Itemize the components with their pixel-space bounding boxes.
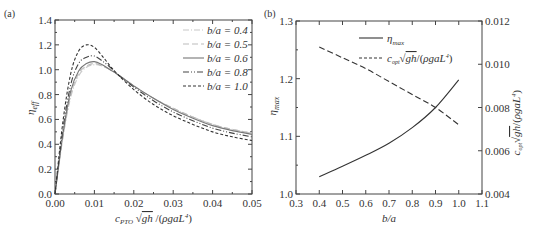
legend-entry: b/a = 0.6 xyxy=(207,52,248,64)
legend-entry: b/a = 0.8 xyxy=(207,66,248,78)
y-tick-label: 0.6 xyxy=(38,113,52,125)
y-right-tick-label: 0.004 xyxy=(485,188,510,200)
legend-entry: b/a = 1.0 xyxy=(207,80,248,92)
y-tick-label: 0.2 xyxy=(38,163,52,175)
y-tick-label: 1.0 xyxy=(279,188,293,200)
y-axis-label: ηmax xyxy=(266,96,281,115)
y-right-axis-label: copt√gh/(ρgaL4) xyxy=(510,90,523,156)
y-tick-label: 0.4 xyxy=(38,138,52,150)
y-right-tick-label: 0.006 xyxy=(485,145,510,157)
x-tick-label: 0.05 xyxy=(242,197,262,209)
y-right-tick-label: 0.008 xyxy=(485,102,510,114)
x-axis-label: cPTO √gh /(ρgaL4) xyxy=(115,212,192,226)
x-tick-label: 0.5 xyxy=(336,197,350,209)
y-tick-label: 0.8 xyxy=(38,89,52,101)
x-axis-label: b/a xyxy=(382,212,397,224)
x-tick-label: 0.03 xyxy=(164,197,184,209)
y-tick-label: 0.0 xyxy=(38,188,52,200)
panel-label-a: (a) xyxy=(4,8,15,20)
x-tick-label: 0.9 xyxy=(429,197,443,209)
panel-label-b: (b) xyxy=(264,8,276,20)
chart-b: 0.30.40.50.60.70.80.91.01.11.01.11.21.30… xyxy=(264,8,523,224)
legend-entry: copt√gh/(ρgaL4) xyxy=(387,52,453,65)
legend-entry: b/a = 0.4 xyxy=(207,24,248,36)
chart-a: 0.000.010.020.030.040.050.00.20.40.60.81… xyxy=(4,8,262,226)
x-tick-label: 0.01 xyxy=(85,197,104,209)
x-tick-label: 0.04 xyxy=(203,197,223,209)
y-tick-label: 1.3 xyxy=(279,15,293,27)
y-right-tick-label: 0.010 xyxy=(485,58,510,70)
figure: 0.000.010.020.030.040.050.00.20.40.60.81… xyxy=(0,0,541,237)
y-axis-label: ηeff xyxy=(24,100,39,115)
x-tick-label: 0.7 xyxy=(382,197,396,209)
series-line xyxy=(319,80,459,177)
x-tick-label: 0.4 xyxy=(312,197,326,209)
legend-entry: ηmax xyxy=(387,32,405,47)
plot-frame-b xyxy=(296,21,482,194)
y-tick-label: 1.1 xyxy=(279,130,293,142)
y-tick-label: 1.0 xyxy=(38,64,52,76)
legend-entry: b/a = 0.5 xyxy=(207,38,248,50)
x-tick-label: 0.02 xyxy=(124,197,143,209)
y-right-tick-label: 0.012 xyxy=(485,15,510,27)
x-tick-label: 0.8 xyxy=(405,197,419,209)
y-tick-label: 1.2 xyxy=(279,73,293,85)
y-tick-label: 1.4 xyxy=(38,14,52,26)
x-tick-label: 1.0 xyxy=(452,197,466,209)
y-tick-label: 1.2 xyxy=(38,39,52,51)
x-tick-label: 0.6 xyxy=(359,197,373,209)
